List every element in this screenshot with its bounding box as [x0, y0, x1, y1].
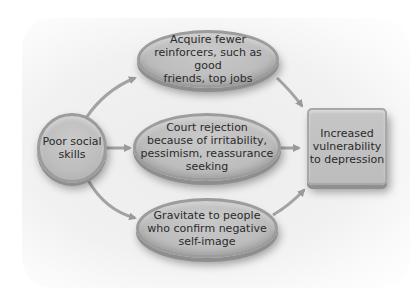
node-label: Court rejection because of irritability,…	[141, 121, 274, 173]
arrow-path1-to-outcome	[277, 78, 302, 106]
node-acquire-fewer-reinforcers: Acquire fewer reinforcers, such as good …	[137, 30, 279, 88]
node-label: Acquire fewer reinforcers, such as good …	[140, 33, 276, 85]
node-court-rejection: Court rejection because of irritability,…	[133, 113, 281, 181]
node-gravitate-to-people: Gravitate to people who confirm negative…	[136, 198, 278, 258]
node-label: Increased vulnerability to depression	[310, 127, 385, 166]
node-poor-social-skills: Poor social skills	[37, 113, 107, 183]
arrow-source-to-path1	[86, 78, 135, 118]
arrow-path3-to-outcome	[273, 190, 304, 215]
node-increased-vulnerability: Increased vulnerability to depression	[307, 108, 387, 185]
node-label: Gravitate to people who confirm negative…	[147, 209, 267, 248]
arrow-source-to-path3	[88, 180, 135, 218]
node-label: Poor social skills	[42, 135, 101, 161]
